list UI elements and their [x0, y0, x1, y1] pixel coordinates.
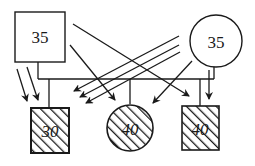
arrow-father-child1-a [17, 69, 27, 101]
arrow-mother-child2 [153, 61, 192, 103]
arrow-mother-child1-a [74, 36, 179, 91]
child-1-label: 30 [41, 122, 60, 141]
father-node: 35 [15, 12, 65, 62]
mother-node: 35 [190, 15, 242, 67]
child-3-node: 40 [182, 106, 219, 150]
child-2-label: 40 [122, 120, 140, 139]
father-label: 35 [32, 28, 49, 47]
arrow-father-child1-b [27, 67, 38, 100]
arrow-father-child3 [73, 24, 189, 96]
mother-label: 35 [208, 33, 225, 52]
pedigree-diagram: 35 35 30 40 40 [0, 0, 255, 166]
child-2-node: 40 [107, 105, 153, 151]
family-lines [38, 62, 214, 108]
child-3-label: 40 [192, 120, 210, 139]
child-1-node: 30 [31, 108, 69, 153]
